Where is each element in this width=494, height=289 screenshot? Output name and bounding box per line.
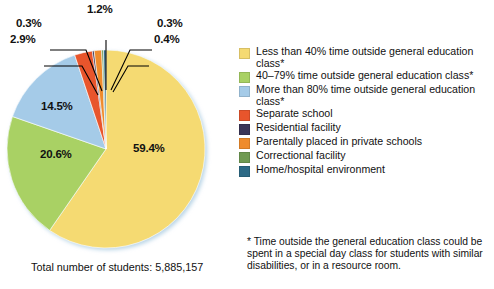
legend-swatch-icon: [239, 86, 250, 97]
legend-item-7[interactable]: Home/hospital environment: [239, 164, 494, 177]
leader-line-0-3-left: [50, 50, 102, 91]
legend-item-label: Parentally placed in private schools: [256, 136, 422, 148]
legend-item-label: Correctional facility: [256, 150, 346, 162]
legend-item-label: Less than 40% time outside general educa…: [256, 46, 494, 69]
slice-label-more-than-80: 14.5%: [41, 100, 73, 112]
legend-item-5[interactable]: Parentally placed in private schools: [239, 136, 494, 149]
legend-swatch-icon: [239, 166, 250, 177]
legend-swatch-icon: [239, 48, 250, 59]
chart-legend: Less than 40% time outside general educa…: [239, 46, 494, 178]
callout-leader-lines: [0, 40, 250, 130]
legend-item-2[interactable]: More than 80% time outside general educa…: [239, 84, 494, 107]
legend-item-label: Residential facility: [256, 122, 341, 134]
legend-swatch-icon: [239, 72, 250, 83]
legend-item-label: More than 80% time outside general educa…: [256, 84, 494, 107]
leader-line-2-9: [44, 66, 98, 95]
pie-chart-figure: 59.4% 20.6% 14.5% 2.9% 0.3% 1.2% 0.3% 0.…: [0, 0, 494, 289]
legend-item-3[interactable]: Separate school: [239, 108, 494, 121]
pie-chart-graphic: [0, 40, 220, 255]
legend-item-6[interactable]: Correctional facility: [239, 150, 494, 163]
callout-label-home-hospital: 0.4%: [154, 33, 179, 45]
legend-item-label: 40–79% time outside general education cl…: [256, 70, 473, 82]
legend-item-0[interactable]: Less than 40% time outside general educa…: [239, 46, 494, 69]
callout-label-separate-school: 2.9%: [10, 33, 35, 45]
slice-label-less-than-40: 59.4%: [133, 142, 165, 154]
leader-line-0-4: [113, 66, 149, 92]
legend-item-label: Home/hospital environment: [256, 164, 385, 176]
slice-label-40-79: 20.6%: [40, 148, 72, 160]
callout-label-parentally-placed: 1.2%: [87, 3, 112, 15]
legend-swatch-icon: [239, 138, 250, 149]
legend-swatch-icon: [239, 152, 250, 163]
total-students-caption: Total number of students: 5,885,157: [31, 261, 203, 273]
legend-swatch-icon: [239, 124, 250, 135]
callout-label-correctional-facility: 0.3%: [157, 17, 182, 29]
legend-item-4[interactable]: Residential facility: [239, 122, 494, 135]
legend-item-label: Separate school: [256, 108, 333, 120]
legend-swatch-icon: [239, 110, 250, 121]
legend-item-1[interactable]: 40–79% time outside general education cl…: [239, 70, 494, 83]
footnote-text: * Time outside the general education cla…: [247, 236, 490, 273]
callout-label-residential-facility: 0.3%: [16, 17, 41, 29]
